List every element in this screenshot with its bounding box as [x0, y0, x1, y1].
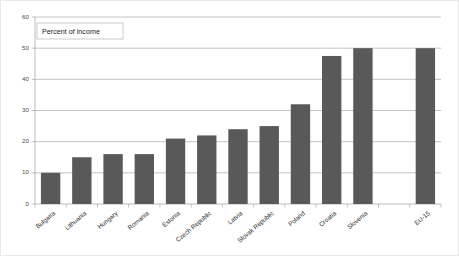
bar [41, 173, 60, 204]
bar [291, 104, 310, 204]
bar [416, 48, 435, 204]
bar [197, 135, 216, 204]
x-axis-label: Croatia [317, 209, 337, 228]
bar [72, 157, 91, 204]
y-tick-label: 30 [22, 106, 29, 113]
y-tick-label: 10 [22, 168, 29, 175]
x-axis-label: Lithuania [63, 209, 87, 231]
bar [103, 154, 122, 204]
x-axis-label: Slovenia [346, 209, 369, 230]
x-axis-label: Bulgaria [34, 209, 57, 230]
y-axis-tickmarks [32, 17, 36, 204]
bar [322, 56, 341, 204]
x-axis-label: Romania [126, 209, 150, 231]
chart-frame: 60 50 40 30 20 10 0 BulgariaLithuaniaHun… [0, 0, 459, 256]
bar [135, 154, 154, 204]
y-tick-label: 50 [22, 44, 29, 51]
x-axis-tickmarks [35, 204, 441, 208]
x-axis-label: EU-15 [413, 209, 432, 226]
x-axis-labels: BulgariaLithuaniaHungaryRomaniaEstoniaCz… [34, 209, 431, 245]
bar [228, 129, 247, 204]
y-tick-label: 0 [26, 200, 30, 207]
y-tick-label: 40 [22, 75, 29, 82]
x-axis-label: Hungary [96, 209, 120, 231]
y-tick-label: 60 [22, 13, 29, 20]
x-axis-label: Latvia [226, 209, 244, 225]
bar [260, 126, 279, 204]
x-axis-label: Estonia [161, 209, 182, 228]
y-tick-label: 20 [22, 137, 29, 144]
bar [353, 48, 372, 204]
annotation-label: Percent of income [42, 27, 100, 36]
bars-group [41, 48, 435, 204]
y-axis-labels: 60 50 40 30 20 10 0 [22, 13, 29, 207]
bar [166, 139, 185, 204]
x-axis-label: Poland [287, 209, 307, 227]
bar-chart: 60 50 40 30 20 10 0 BulgariaLithuaniaHun… [1, 1, 459, 256]
